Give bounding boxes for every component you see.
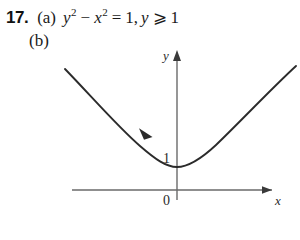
- equation-rhs-value: 1: [125, 8, 134, 27]
- equation-lhs-exp1: 2: [71, 6, 77, 18]
- graph-figure: x y 1 0: [0, 40, 300, 240]
- equation-condition-var: y: [141, 8, 149, 27]
- y-axis-label: y: [161, 48, 169, 63]
- curve-direction-arrowhead: [139, 128, 153, 140]
- exercise-page: 17. (a) y2−x2=1,y⩾1 (b) x y 1: [0, 0, 300, 240]
- hyperbola-upper-branch-curve: [65, 66, 296, 167]
- equation-minus-operator: −: [81, 8, 91, 27]
- equation-lhs-var1: y: [63, 8, 71, 27]
- exercise-number: 17.: [6, 8, 28, 28]
- y-axis-arrowhead: [173, 50, 181, 61]
- x-axis-label: x: [274, 193, 281, 208]
- origin-label: 0: [163, 193, 170, 208]
- equation-comma: ,: [134, 8, 138, 27]
- exercise-line-a: 17. (a) y2−x2=1,y⩾1: [6, 6, 179, 28]
- y-tick-label-1: 1: [163, 151, 170, 166]
- equation-part-a: y2−x2=1,y⩾1: [63, 6, 179, 28]
- equation-condition-value: 1: [171, 8, 180, 27]
- equation-equals-sign: =: [112, 8, 122, 27]
- equation-condition-relation: ⩾: [153, 8, 167, 27]
- part-a-label: (a): [37, 8, 56, 28]
- equation-lhs-var2: x: [94, 8, 102, 27]
- equation-lhs-exp2: 2: [102, 6, 108, 18]
- x-axis-arrowhead: [262, 186, 272, 194]
